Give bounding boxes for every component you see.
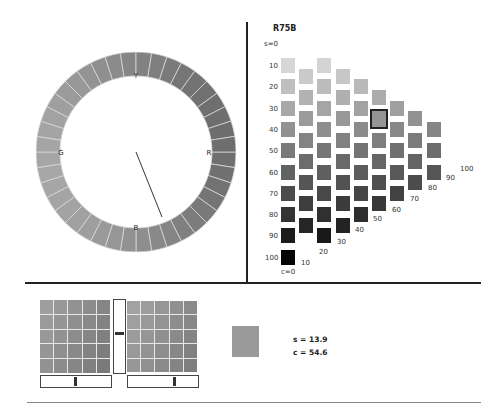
swatch-cell[interactable] xyxy=(170,344,183,357)
swatch-cell[interactable] xyxy=(127,301,140,314)
grid-cell[interactable] xyxy=(408,154,422,169)
grid-cell[interactable] xyxy=(281,101,295,116)
swatch-cell[interactable] xyxy=(40,330,53,344)
grid-cell[interactable] xyxy=(354,207,368,222)
grid-cell[interactable] xyxy=(372,90,386,105)
grid-cell[interactable] xyxy=(336,111,350,126)
grid-cell[interactable] xyxy=(317,143,331,158)
grid-cell[interactable] xyxy=(281,207,295,222)
grid-cell[interactable] xyxy=(390,122,404,137)
grid-cell[interactable] xyxy=(317,207,331,222)
grid-cell[interactable] xyxy=(354,101,368,116)
grid-cell[interactable] xyxy=(336,218,350,233)
grid-cell[interactable] xyxy=(372,154,386,169)
grid-cell[interactable] xyxy=(299,133,313,148)
swatch-cell[interactable] xyxy=(184,301,197,314)
swatch-cell[interactable] xyxy=(127,359,140,372)
grid-cell[interactable] xyxy=(336,154,350,169)
grid-cell[interactable] xyxy=(336,133,350,148)
grid-cell[interactable] xyxy=(390,186,404,201)
swatch-cell[interactable] xyxy=(184,359,197,372)
right-slider-thumb[interactable] xyxy=(173,377,176,386)
swatch-cell[interactable] xyxy=(155,301,168,314)
grid-cell[interactable] xyxy=(281,143,295,158)
grid-cell[interactable] xyxy=(336,90,350,105)
grid-cell[interactable] xyxy=(299,218,313,233)
grid-cell[interactable] xyxy=(427,165,441,180)
grid-cell[interactable] xyxy=(299,154,313,169)
grid-cell[interactable] xyxy=(317,79,331,94)
grid-cell[interactable] xyxy=(299,90,313,105)
grid-cell[interactable] xyxy=(427,143,441,158)
grid-cell[interactable] xyxy=(281,228,295,243)
grid-cell[interactable] xyxy=(427,122,441,137)
right-horizontal-slider[interactable] xyxy=(127,375,199,388)
grid-cell[interactable] xyxy=(354,122,368,137)
swatch-cell[interactable] xyxy=(97,359,110,373)
swatch-cell[interactable] xyxy=(127,315,140,328)
grid-cell[interactable] xyxy=(299,175,313,190)
swatch-cell[interactable] xyxy=(54,315,67,329)
grid-cell[interactable] xyxy=(281,165,295,180)
grid-cell[interactable] xyxy=(390,143,404,158)
swatch-cell[interactable] xyxy=(54,300,67,314)
grid-cell[interactable] xyxy=(299,111,313,126)
grid-cell[interactable] xyxy=(336,175,350,190)
swatch-cell[interactable] xyxy=(170,315,183,328)
selected-grid-cell[interactable] xyxy=(372,111,386,127)
swatch-cell[interactable] xyxy=(83,344,96,358)
swatch-cell[interactable] xyxy=(155,330,168,343)
grid-cell[interactable] xyxy=(317,186,331,201)
grid-cell[interactable] xyxy=(281,250,295,265)
grid-cell[interactable] xyxy=(408,175,422,190)
grid-cell[interactable] xyxy=(281,58,295,73)
swatch-cell[interactable] xyxy=(155,359,168,372)
swatch-cell[interactable] xyxy=(40,344,53,358)
grid-cell[interactable] xyxy=(354,186,368,201)
swatch-cell[interactable] xyxy=(68,315,81,329)
swatch-cell[interactable] xyxy=(68,344,81,358)
swatch-cell[interactable] xyxy=(141,301,154,314)
swatch-cell[interactable] xyxy=(68,300,81,314)
swatch-cell[interactable] xyxy=(141,344,154,357)
grid-cell[interactable] xyxy=(317,122,331,137)
swatch-cell[interactable] xyxy=(184,315,197,328)
swatch-cell[interactable] xyxy=(127,344,140,357)
grid-cell[interactable] xyxy=(372,175,386,190)
swatch-cell[interactable] xyxy=(155,344,168,357)
swatch-cell[interactable] xyxy=(184,344,197,357)
grid-cell[interactable] xyxy=(317,101,331,116)
swatch-cell[interactable] xyxy=(40,300,53,314)
swatch-cell[interactable] xyxy=(83,300,96,314)
swatch-cell[interactable] xyxy=(40,359,53,373)
swatch-cell[interactable] xyxy=(68,330,81,344)
left-swatch-grid[interactable] xyxy=(40,300,110,373)
swatch-cell[interactable] xyxy=(40,315,53,329)
grid-cell[interactable] xyxy=(317,165,331,180)
swatch-cell[interactable] xyxy=(68,359,81,373)
right-swatch-grid[interactable] xyxy=(127,301,197,372)
vertical-slider[interactable] xyxy=(113,299,126,374)
swatch-cell[interactable] xyxy=(83,330,96,344)
grid-cell[interactable] xyxy=(408,111,422,126)
swatch-cell[interactable] xyxy=(170,301,183,314)
swatch-cell[interactable] xyxy=(83,359,96,373)
grid-cell[interactable] xyxy=(317,228,331,243)
grid-cell[interactable] xyxy=(299,196,313,211)
swatch-cell[interactable] xyxy=(97,300,110,314)
swatch-cell[interactable] xyxy=(141,330,154,343)
grid-cell[interactable] xyxy=(390,165,404,180)
swatch-cell[interactable] xyxy=(141,315,154,328)
grid-cell[interactable] xyxy=(336,69,350,84)
swatch-cell[interactable] xyxy=(184,330,197,343)
left-slider-thumb[interactable] xyxy=(74,377,77,386)
grid-cell[interactable] xyxy=(317,58,331,73)
grid-cell[interactable] xyxy=(354,143,368,158)
grid-cell[interactable] xyxy=(408,133,422,148)
swatch-cell[interactable] xyxy=(155,315,168,328)
swatch-cell[interactable] xyxy=(54,330,67,344)
swatch-cell[interactable] xyxy=(54,359,67,373)
grid-cell[interactable] xyxy=(281,186,295,201)
swatch-cell[interactable] xyxy=(54,344,67,358)
grid-cell[interactable] xyxy=(372,133,386,148)
